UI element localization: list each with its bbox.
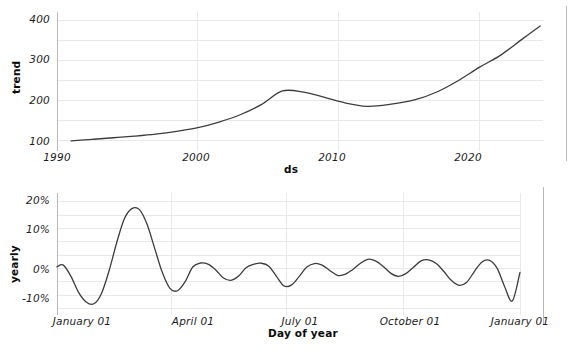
yearly-plot-panel — [57, 199, 520, 311]
trend-y-axis-title: trend — [10, 61, 22, 94]
yearly-xtick-july-01: July 01 — [250, 315, 350, 327]
trend-chart-canvas — [57, 18, 543, 147]
yearly-chart-canvas — [57, 199, 520, 311]
trend-ytick-400: 400 — [8, 13, 50, 25]
trend-ytick-100: 100 — [8, 135, 50, 147]
yearly-xtick-january-01: January 01 — [32, 315, 132, 327]
trend-x-axis-title: ds — [284, 163, 298, 175]
yearly-xtick-january-01-end: January 01 — [470, 315, 570, 327]
yearly-ytick-20: 20% — [2, 194, 50, 206]
trend-xtick-2000: 2000 — [166, 151, 226, 163]
trend-xtick-2020: 2020 — [438, 151, 498, 163]
yearly-xtick-october-01: October 01 — [360, 315, 460, 327]
trend-ytick-200: 200 — [8, 94, 50, 106]
yearly-x-axis-title: Day of year — [268, 327, 338, 339]
trend-xtick-2010: 2010 — [302, 151, 362, 163]
yearly-y-axis-title: yearly — [8, 245, 20, 283]
yearly-ytick-neg10: -10% — [2, 292, 50, 304]
yearly-ytick-10: 10% — [2, 223, 50, 235]
trend-plot-panel — [57, 18, 543, 147]
yearly-xtick-april-01: April 01 — [143, 315, 243, 327]
trend-xtick-1990: 1990 — [27, 151, 87, 163]
